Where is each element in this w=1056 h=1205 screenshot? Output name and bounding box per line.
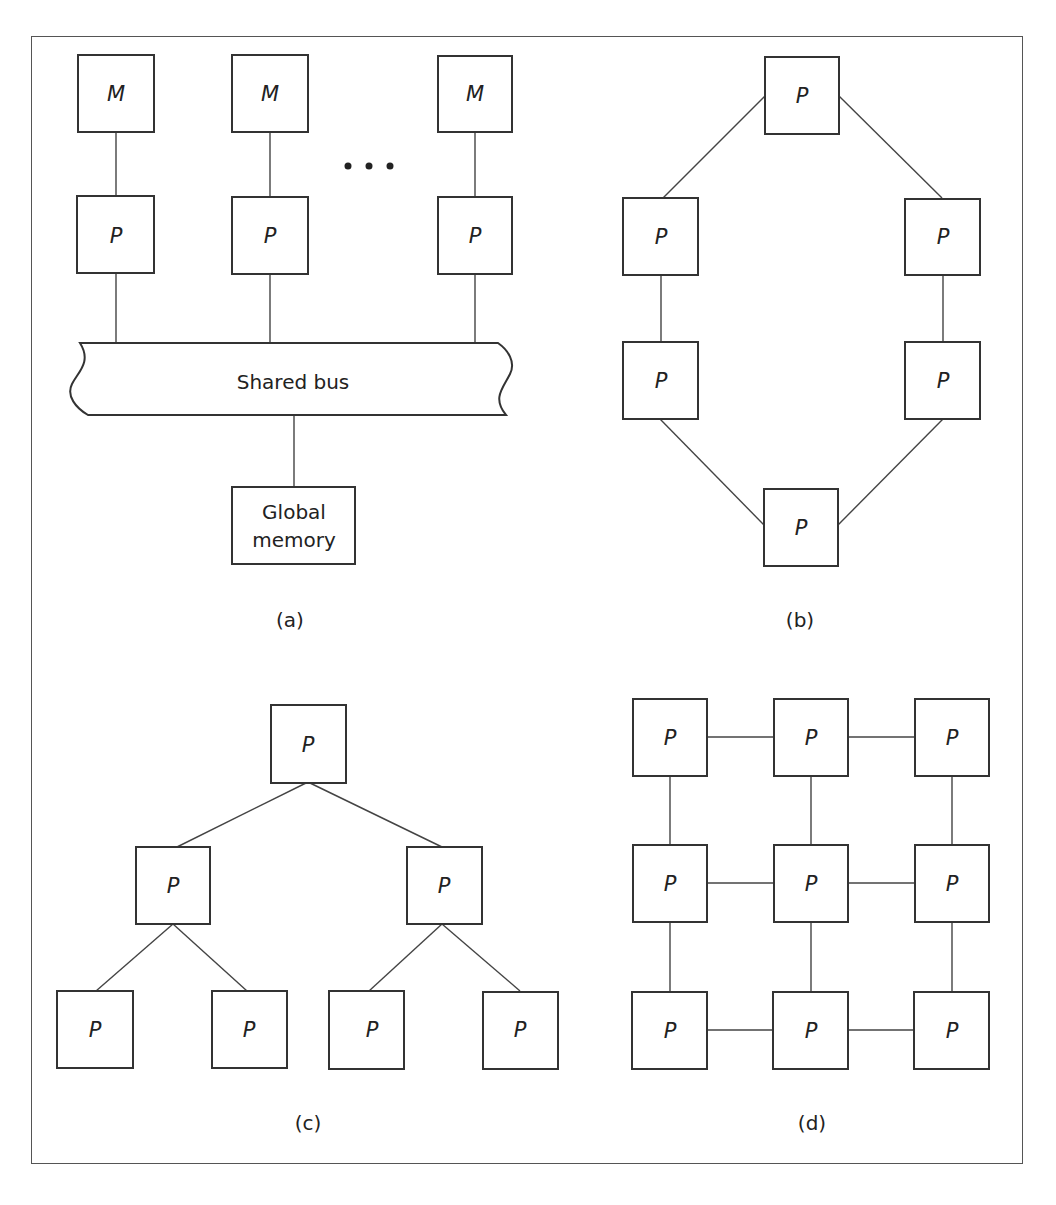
tree-label-leaf-1: P [89,1018,102,1042]
caption-c: (c) [295,1111,322,1135]
tree-label-leaf-2: P [243,1018,256,1042]
memory-label-3: M [466,82,484,106]
panel-a-graphics [70,55,512,564]
panel-b-graphics [623,57,980,566]
shared-bus-label: Shared bus [237,370,350,394]
tree-label-left: P [167,874,180,898]
tree-label-right: P [438,874,451,898]
global-memory-label-line2: memory [252,527,336,553]
ring-label-lower-right: P [937,369,950,393]
tree-label-leaf-3: P [366,1018,379,1042]
mesh-label-r1c2: P [805,726,818,750]
caption-a: (a) [276,608,304,632]
ring-label-bottom: P [795,516,808,540]
mesh-label-r3c3: P [946,1019,959,1043]
mesh-label-r2c1: P [664,872,677,896]
mesh-label-r1c1: P [664,726,677,750]
mesh-label-r2c2: P [805,872,818,896]
ring-label-upper-left: P [655,225,668,249]
mesh-label-r1c3: P [946,726,959,750]
panel-c-graphics [57,705,558,1069]
figure: M M M P P P Shared bus Global memory (a)… [0,0,1056,1205]
caption-d: (d) [798,1111,826,1135]
ring-label-upper-right: P [937,225,950,249]
mesh-label-r2c3: P [946,872,959,896]
processor-label-2: P [264,224,277,248]
diagram-graphics [0,0,1056,1205]
processor-label-1: P [110,224,123,248]
memory-label-2: M [261,82,279,106]
global-memory-label-line1: Global [262,499,326,525]
ring-label-top: P [796,84,809,108]
ellipsis-dot-1 [345,163,352,170]
ellipsis-dot-3 [387,163,394,170]
caption-b: (b) [786,608,814,632]
memory-label-1: M [107,82,125,106]
ellipsis-dot-2 [366,163,373,170]
mesh-label-r3c2: P [805,1019,818,1043]
tree-label-root: P [302,733,315,757]
ring-label-lower-left: P [655,369,668,393]
mesh-label-r3c1: P [664,1019,677,1043]
processor-label-3: P [469,224,482,248]
tree-label-leaf-4: P [514,1018,527,1042]
